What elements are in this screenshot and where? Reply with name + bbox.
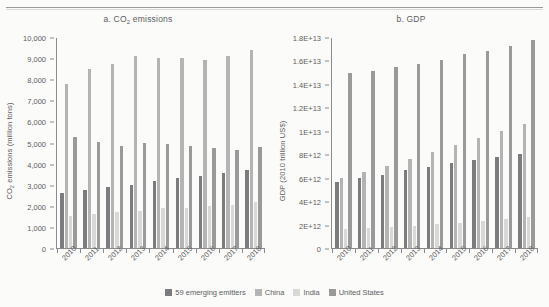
y-axis-tick-label: 4,000 — [27, 160, 46, 169]
bar-group — [196, 38, 219, 249]
bar[interactable] — [185, 208, 188, 249]
bar-group — [219, 38, 242, 249]
bar[interactable] — [431, 152, 434, 249]
bar[interactable] — [417, 64, 420, 249]
bar[interactable] — [500, 131, 503, 249]
bar[interactable] — [463, 54, 466, 249]
bar[interactable] — [509, 46, 512, 249]
bar[interactable] — [450, 163, 453, 249]
bar[interactable] — [157, 58, 160, 249]
legend-item[interactable]: China — [255, 288, 285, 297]
y-axis-tick-label: 1,000 — [27, 223, 46, 232]
y-axis-tick — [50, 59, 54, 60]
y-axis-tick — [325, 202, 329, 203]
bar[interactable] — [404, 170, 407, 249]
legend-label: China — [265, 288, 285, 297]
bar[interactable] — [134, 56, 137, 249]
bar[interactable] — [518, 154, 521, 249]
top-rule — [6, 7, 543, 8]
bar[interactable] — [180, 58, 183, 249]
bar[interactable] — [495, 157, 498, 249]
legend-label: India — [303, 288, 319, 297]
bar[interactable] — [385, 166, 388, 249]
y-axis-tick-label: 5,000 — [27, 139, 46, 148]
bar-series-gdp — [332, 38, 538, 249]
bar-group — [355, 38, 378, 249]
bar[interactable] — [440, 60, 443, 249]
bar[interactable] — [176, 178, 179, 249]
bar[interactable] — [189, 146, 192, 249]
bar[interactable] — [199, 176, 202, 249]
y-axis-tick-label: 3,000 — [27, 181, 46, 190]
bar[interactable] — [226, 56, 229, 249]
bar-group — [332, 38, 355, 249]
bar[interactable] — [97, 142, 100, 249]
bar[interactable] — [348, 73, 351, 249]
bar[interactable] — [486, 51, 489, 249]
bar[interactable] — [143, 143, 146, 249]
legend-swatch — [329, 289, 336, 296]
bar[interactable] — [454, 145, 457, 249]
panel-title-gdp-prefix: b. GDP — [396, 14, 425, 24]
bar[interactable] — [408, 159, 411, 249]
bar-group — [242, 38, 265, 249]
bar[interactable] — [371, 71, 374, 249]
y-axis-tick-label: 1.8E+13 — [293, 34, 321, 43]
y-axis-tick-label: 1.2E+13 — [293, 104, 321, 113]
plot-area-co2 — [56, 38, 265, 249]
y-axis-tick-label: 8,000 — [27, 76, 46, 85]
bar[interactable] — [381, 175, 384, 249]
bar[interactable] — [203, 60, 206, 249]
bar[interactable] — [340, 178, 343, 250]
bar[interactable] — [231, 205, 234, 249]
bar[interactable] — [120, 146, 123, 249]
bar[interactable] — [235, 150, 238, 249]
y-axis-tick — [50, 227, 54, 228]
bar[interactable] — [254, 202, 257, 249]
bar[interactable] — [477, 138, 480, 249]
y-axis-tick-label: 8E+12 — [299, 151, 321, 160]
legend-item[interactable]: 59 emerging emitters — [165, 288, 245, 297]
bar[interactable] — [245, 170, 248, 249]
y-axis-tick — [325, 38, 329, 39]
bar[interactable] — [130, 185, 133, 249]
bar-group — [492, 38, 515, 249]
y-axis-tick-label: 0 — [42, 245, 46, 254]
bar[interactable] — [208, 206, 211, 249]
bar[interactable] — [523, 124, 526, 249]
bar[interactable] — [65, 84, 68, 249]
bar[interactable] — [88, 69, 91, 249]
bar[interactable] — [258, 147, 261, 249]
bar[interactable] — [531, 40, 534, 249]
bar[interactable] — [335, 182, 338, 249]
bar[interactable] — [222, 173, 225, 249]
bar[interactable] — [394, 67, 397, 249]
bar[interactable] — [427, 167, 430, 249]
y-axis-tick — [50, 164, 54, 165]
bar[interactable] — [60, 193, 63, 249]
bar[interactable] — [362, 172, 365, 249]
y-axis-tick — [50, 122, 54, 123]
legend-item[interactable]: United States — [329, 288, 384, 297]
bar[interactable] — [358, 178, 361, 249]
y-axis-tick-label: 1.4E+13 — [293, 80, 321, 89]
y-axis-tick-label: 1E+13 — [299, 127, 321, 136]
bar[interactable] — [250, 50, 253, 249]
plot-area-gdp — [331, 38, 538, 249]
bar-group — [378, 38, 401, 249]
bar[interactable] — [472, 160, 475, 249]
bar[interactable] — [212, 148, 215, 249]
y-axis-tick-label: 7,000 — [27, 97, 46, 106]
x-axis-labels-gdp: 201020112012201320142015201620172018 — [331, 252, 537, 286]
y-axis-tick — [50, 143, 54, 144]
bar[interactable] — [83, 190, 86, 249]
bar[interactable] — [153, 181, 156, 249]
bar[interactable] — [106, 187, 109, 249]
x-axis-tick — [264, 249, 265, 253]
legend-item[interactable]: India — [293, 288, 319, 297]
bar[interactable] — [166, 144, 169, 250]
panel-title-co2: a. CO2 emissions — [2, 14, 274, 25]
bar[interactable] — [73, 137, 76, 249]
bar[interactable] — [111, 64, 114, 249]
y-axis-tick — [50, 38, 54, 39]
